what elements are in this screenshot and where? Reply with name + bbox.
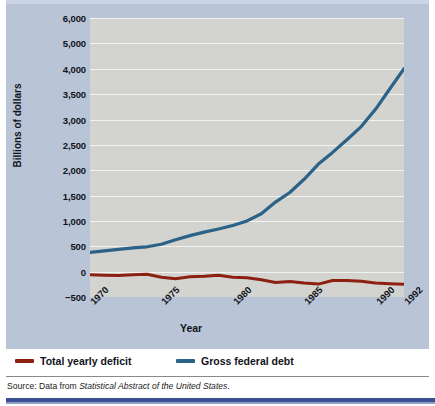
series-line-gross-federal-debt (90, 69, 404, 253)
y-tick-label: 3,000 (40, 114, 86, 125)
legend-swatch (176, 359, 195, 363)
source-prefix: Source: Data from (7, 381, 79, 391)
y-tick-label: 1,500 (40, 190, 86, 201)
y-tick-label: 6,000 (40, 13, 86, 24)
y-tick-label: 2,000 (40, 165, 86, 176)
x-axis-tick-labels: 197019751980198519901992 (90, 299, 404, 333)
legend-item[interactable]: Gross federal debt (176, 355, 294, 367)
x-axis-title: Year (180, 322, 202, 334)
y-tick-label: 500 (40, 241, 86, 252)
source-suffix: . (227, 381, 229, 391)
legend-item[interactable]: Total yearly deficit (15, 355, 131, 367)
legend-label: Total yearly deficit (40, 355, 131, 367)
source-title: Statistical Abstract of the United State… (79, 381, 227, 391)
y-tick-label: 3,500 (40, 89, 86, 100)
y-axis-tick-labels: −50005001,0001,5002,0002,5003,0003,5004,… (36, 18, 86, 297)
figure-deficit-and-debt: Billions of dollars −50005001,0001,5002,… (0, 0, 435, 406)
y-axis-title: Billions of dollars (12, 71, 23, 181)
legend-swatch (15, 359, 34, 363)
chart-legend: Total yearly deficitGross federal debt (6, 349, 429, 376)
source-divider-rule (6, 376, 429, 377)
y-tick-label: 4,000 (40, 63, 86, 74)
y-tick-label: −500 (40, 292, 86, 303)
y-tick-label: 0 (40, 266, 86, 277)
y-tick-label: 1,000 (40, 215, 86, 226)
series-line-total-yearly-deficit (90, 274, 404, 284)
source-note: Source: Data from Statistical Abstract o… (7, 381, 230, 391)
bottom-accent-bar-light (6, 402, 435, 404)
y-tick-label: 5,000 (40, 38, 86, 49)
legend-label: Gross federal debt (201, 355, 294, 367)
plot-area (90, 18, 404, 297)
plot-svg (90, 18, 404, 297)
y-tick-label: 2,500 (40, 139, 86, 150)
